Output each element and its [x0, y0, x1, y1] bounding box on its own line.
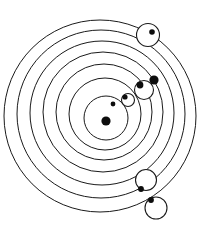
planet-top — [149, 29, 155, 35]
orbital-diagram: Heliocentric orbital diagram Concentric … — [0, 0, 223, 236]
epicycle-outer-top — [137, 24, 160, 47]
planet-lower — [138, 186, 144, 192]
inner-planet — [111, 102, 116, 107]
diagram-background — [0, 0, 223, 236]
sun — [101, 116, 110, 125]
orbital-diagram-canvas — [0, 0, 223, 236]
planet-small-e3 — [122, 94, 127, 99]
planet-bottom — [148, 197, 154, 203]
planet-outer — [149, 75, 158, 84]
planet-e2 — [137, 82, 144, 89]
